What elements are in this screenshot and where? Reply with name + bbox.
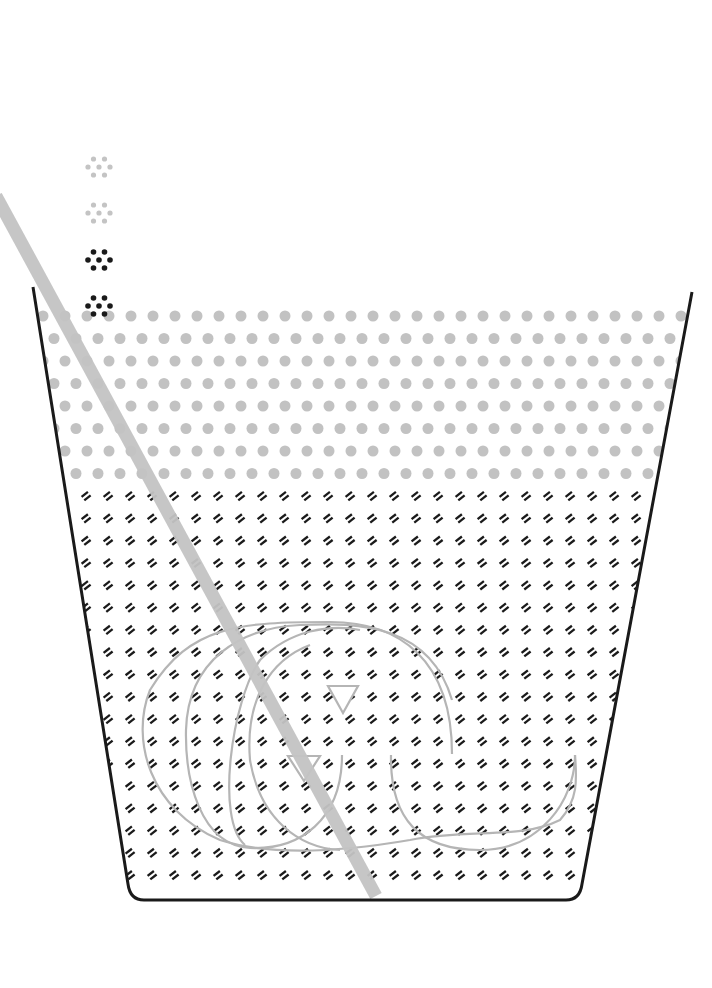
dark-mark xyxy=(323,870,333,880)
dark-mark xyxy=(169,870,179,880)
dark-mark xyxy=(213,491,223,501)
light-dot xyxy=(401,423,412,434)
particle-cluster-dark xyxy=(85,249,113,271)
dark-mark xyxy=(499,647,509,657)
dark-mark xyxy=(169,848,179,858)
light-dot xyxy=(621,468,632,479)
dark-mark xyxy=(587,647,597,657)
dark-mark xyxy=(499,759,509,769)
dark-mark xyxy=(103,625,113,635)
dark-mark xyxy=(103,669,113,679)
dark-mark xyxy=(147,826,157,836)
dark-mark xyxy=(521,536,531,546)
light-dot xyxy=(445,468,456,479)
dark-mark xyxy=(543,870,553,880)
dark-mark xyxy=(257,536,267,546)
dark-mark xyxy=(235,491,245,501)
dark-mark xyxy=(565,870,575,880)
dark-mark xyxy=(147,647,157,657)
light-dot xyxy=(170,446,181,457)
dark-mark xyxy=(367,513,377,523)
light-dot xyxy=(27,423,38,434)
falling-particles xyxy=(85,156,113,316)
dark-mark xyxy=(565,692,575,702)
light-dot xyxy=(27,333,38,344)
dark-mark xyxy=(323,669,333,679)
dark-mark xyxy=(389,848,399,858)
dark-mark xyxy=(257,558,267,568)
dark-mark xyxy=(235,513,245,523)
dark-mark xyxy=(565,625,575,635)
dark-mark xyxy=(367,826,377,836)
dark-mark xyxy=(477,714,487,724)
dark-mark xyxy=(411,558,421,568)
dark-mark xyxy=(125,647,135,657)
dark-mark xyxy=(345,714,355,724)
light-dot xyxy=(214,311,225,322)
dark-mark xyxy=(279,781,289,791)
dark-mark xyxy=(455,714,465,724)
dark-mark xyxy=(675,826,685,836)
light-dot xyxy=(247,468,258,479)
dark-mark xyxy=(499,669,509,679)
dark-mark xyxy=(499,603,509,613)
dark-mark xyxy=(587,558,597,568)
light-dot xyxy=(214,401,225,412)
light-dot xyxy=(258,356,269,367)
light-dot xyxy=(621,333,632,344)
dark-mark xyxy=(609,848,619,858)
dark-mark xyxy=(345,558,355,568)
dark-mark xyxy=(125,580,135,590)
light-dot xyxy=(599,423,610,434)
dark-mark xyxy=(609,558,619,568)
dark-mark xyxy=(125,669,135,679)
dark-mark xyxy=(125,603,135,613)
light-dot xyxy=(38,446,49,457)
light-dot xyxy=(522,311,533,322)
dark-mark xyxy=(367,603,377,613)
light-dot xyxy=(621,378,632,389)
dark-mark xyxy=(455,580,465,590)
dark-mark xyxy=(675,803,685,813)
dark-mark xyxy=(543,603,553,613)
light-dot xyxy=(456,311,467,322)
particle-cluster-light xyxy=(85,202,112,223)
dark-mark xyxy=(587,759,597,769)
dark-mark xyxy=(675,558,685,568)
light-dot xyxy=(280,311,291,322)
dark-mark xyxy=(653,803,663,813)
light-dot xyxy=(159,423,170,434)
dark-mark xyxy=(587,714,597,724)
dark-mark xyxy=(455,513,465,523)
light-dot xyxy=(203,333,214,344)
straw xyxy=(0,196,376,896)
light-dot xyxy=(60,356,71,367)
dark-mark xyxy=(631,781,641,791)
dark-mark xyxy=(213,558,223,568)
dark-mark xyxy=(125,781,135,791)
dark-mark xyxy=(345,759,355,769)
light-dot xyxy=(643,423,654,434)
dark-mark xyxy=(81,759,91,769)
dark-mark xyxy=(455,870,465,880)
light-dot xyxy=(71,378,82,389)
light-dot xyxy=(412,356,423,367)
dark-mark xyxy=(103,848,113,858)
dark-mark xyxy=(433,803,443,813)
dark-mark xyxy=(565,669,575,679)
light-dot xyxy=(434,311,445,322)
light-dot xyxy=(687,378,698,389)
light-dot xyxy=(511,468,522,479)
light-dot xyxy=(115,378,126,389)
dark-mark xyxy=(81,536,91,546)
dark-mark xyxy=(543,491,553,501)
dark-mark xyxy=(653,714,663,724)
dark-mark xyxy=(169,736,179,746)
dark-mark xyxy=(477,513,487,523)
dark-mark xyxy=(323,536,333,546)
dark-mark xyxy=(257,714,267,724)
light-dot xyxy=(522,401,533,412)
dark-mark xyxy=(257,491,267,501)
dark-mark xyxy=(675,580,685,590)
dark-mark xyxy=(455,491,465,501)
